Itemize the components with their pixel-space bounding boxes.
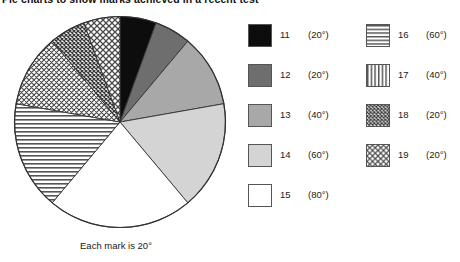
legend-label-16: 16 — [398, 29, 409, 40]
legend-swatch-13 — [248, 104, 272, 127]
pie-slice-group — [14, 17, 225, 228]
legend-swatch-18 — [366, 104, 390, 127]
legend-angle-14: (60°) — [308, 149, 329, 160]
page-title: Pie charts to show marks achieved in a r… — [2, 0, 259, 5]
legend-column-right: 16(60°)17(40°)18(20°)19(20°) — [366, 22, 460, 182]
legend-item-11[interactable]: 11(20°) — [248, 22, 352, 62]
legend-angle-19: (20°) — [426, 149, 447, 160]
legend-angle-11: (20°) — [308, 29, 329, 40]
legend-item-19[interactable]: 19(20°) — [366, 142, 460, 182]
legend-angle-12: (20°) — [308, 69, 329, 80]
legend-label-15: 15 — [280, 189, 291, 200]
legend-swatch-12 — [248, 64, 272, 87]
legend-item-14[interactable]: 14(60°) — [248, 142, 352, 182]
legend-item-18[interactable]: 18(20°) — [366, 102, 460, 142]
pie-chart-figure — [10, 11, 230, 233]
pie-chart-svg — [10, 11, 230, 233]
legend-label-18: 18 — [398, 109, 409, 120]
legend-swatch-14 — [248, 144, 272, 167]
legend-label-19: 19 — [398, 149, 409, 160]
pie-caption: Each mark is 20° — [0, 240, 232, 251]
legend-label-12: 12 — [280, 69, 291, 80]
legend-swatch-15 — [248, 184, 272, 207]
legend-item-16[interactable]: 16(60°) — [366, 22, 460, 62]
legend-item-13[interactable]: 13(40°) — [248, 102, 352, 142]
legend-swatch-11 — [248, 24, 272, 47]
legend-label-17: 17 — [398, 69, 409, 80]
legend-swatch-17 — [366, 64, 390, 87]
legend-label-14: 14 — [280, 149, 291, 160]
legend-angle-15: (80°) — [308, 189, 329, 200]
legend-item-17[interactable]: 17(40°) — [366, 62, 460, 102]
legend: 11(20°)12(20°)13(40°)14(60°)15(80°) 16(6… — [248, 22, 456, 202]
legend-angle-17: (40°) — [426, 69, 447, 80]
legend-angle-18: (20°) — [426, 109, 447, 120]
legend-label-13: 13 — [280, 109, 291, 120]
legend-angle-16: (60°) — [426, 29, 447, 40]
legend-swatch-16 — [366, 24, 390, 47]
legend-item-12[interactable]: 12(20°) — [248, 62, 352, 102]
legend-label-11: 11 — [280, 29, 290, 40]
legend-swatch-19 — [366, 144, 390, 167]
legend-column-left: 11(20°)12(20°)13(40°)14(60°)15(80°) — [248, 22, 352, 222]
legend-item-15[interactable]: 15(80°) — [248, 182, 352, 222]
legend-angle-13: (40°) — [308, 109, 329, 120]
